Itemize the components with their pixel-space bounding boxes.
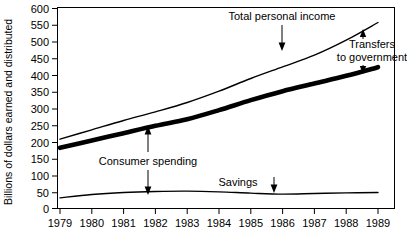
annotation-consumer-spending: Consumer spending bbox=[99, 155, 197, 167]
y-axis-title: Billions of dollars earned and distribut… bbox=[2, 19, 14, 205]
y-tick-label: 250 bbox=[31, 120, 49, 132]
y-tick-label: 350 bbox=[31, 86, 49, 98]
y-tick-label: 150 bbox=[31, 153, 49, 165]
y-tick-label: 550 bbox=[31, 19, 49, 31]
x-axis-ticks bbox=[60, 209, 378, 215]
x-tick-label: 1981 bbox=[111, 217, 135, 229]
y-tick-label: 200 bbox=[31, 137, 49, 149]
x-tick-label: 1980 bbox=[80, 217, 104, 229]
line-chart: 600 550 500 450 400 350 300 250 200 150 … bbox=[0, 0, 407, 238]
x-tick-label: 1986 bbox=[270, 217, 294, 229]
arrow-total-personal-income bbox=[279, 25, 286, 51]
x-tick-label: 1979 bbox=[48, 217, 72, 229]
x-tick-label: 1985 bbox=[239, 217, 263, 229]
chart-figure: 600 550 500 450 400 350 300 250 200 150 … bbox=[0, 0, 407, 238]
x-tick-label: 1989 bbox=[366, 217, 390, 229]
y-axis-ticks bbox=[52, 9, 58, 209]
annotation-transfers-line2: to government bbox=[337, 51, 407, 63]
series-consumer-spending bbox=[60, 67, 378, 148]
y-tick-label: 400 bbox=[31, 70, 49, 82]
x-tick-label: 1982 bbox=[143, 217, 167, 229]
x-tick-label: 1983 bbox=[175, 217, 199, 229]
y-tick-label: 600 bbox=[31, 3, 49, 15]
x-tick-label: 1987 bbox=[302, 217, 326, 229]
y-axis-tick-labels: 600 550 500 450 400 350 300 250 200 150 … bbox=[31, 3, 49, 215]
y-tick-label: 450 bbox=[31, 53, 49, 65]
y-tick-label: 300 bbox=[31, 103, 49, 115]
series-savings bbox=[60, 191, 378, 198]
y-tick-label: 50 bbox=[37, 187, 49, 199]
x-tick-label: 1988 bbox=[334, 217, 358, 229]
annotation-transfers-line1: Transfers bbox=[349, 38, 396, 50]
y-tick-label: 500 bbox=[31, 36, 49, 48]
y-tick-label: 0 bbox=[43, 203, 49, 215]
annotation-savings: Savings bbox=[218, 176, 258, 188]
annotation-total-personal-income: Total personal income bbox=[228, 10, 335, 22]
y-tick-label: 100 bbox=[31, 170, 49, 182]
x-axis-tick-labels: 1979 1980 1981 1982 1983 1984 1985 1986 … bbox=[48, 217, 390, 229]
arrow-savings bbox=[271, 177, 278, 193]
x-tick-label: 1984 bbox=[207, 217, 231, 229]
